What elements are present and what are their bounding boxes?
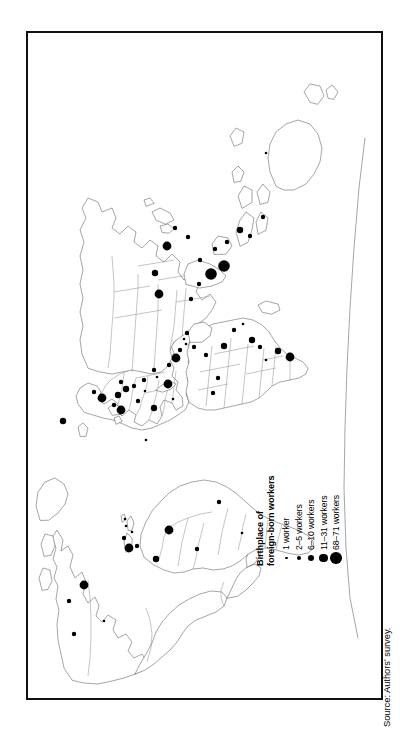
map-data-point bbox=[164, 380, 173, 389]
map-data-point bbox=[72, 632, 76, 636]
map-data-point bbox=[152, 368, 156, 372]
map-data-point bbox=[241, 532, 244, 535]
map-data-point bbox=[135, 544, 139, 548]
figure-root: Birthplace of foreign-born workers 1 wor… bbox=[0, 0, 400, 735]
map-data-point bbox=[132, 384, 136, 388]
map-data-point bbox=[265, 359, 268, 362]
map-data-point bbox=[198, 258, 202, 262]
legend-item-2-5-workers: 2–5 workers bbox=[293, 438, 305, 566]
map-data-point bbox=[136, 399, 140, 403]
legend-title: Birthplace of foreign-born workers bbox=[255, 438, 276, 566]
map-data-point bbox=[232, 328, 236, 332]
map-data-point bbox=[225, 240, 229, 244]
map-rotation-wrapper bbox=[28, 33, 381, 698]
map-data-point bbox=[145, 439, 148, 442]
map-data-point bbox=[163, 242, 172, 251]
map-data-point bbox=[142, 378, 146, 382]
map-data-point bbox=[178, 348, 182, 352]
map-data-point bbox=[265, 152, 268, 155]
legend-item-6-10-workers: 6–10 workers bbox=[305, 438, 317, 566]
map-data-point bbox=[117, 406, 126, 415]
map-data-point bbox=[185, 343, 188, 346]
map-data-point bbox=[125, 544, 134, 553]
map-data-point bbox=[112, 403, 116, 407]
map-data-point bbox=[242, 323, 245, 326]
map-data-point bbox=[248, 234, 252, 238]
map-data-point bbox=[92, 390, 96, 394]
map-data-point bbox=[119, 380, 123, 384]
legend-symbol-icon bbox=[330, 550, 342, 566]
map-data-point bbox=[167, 363, 171, 367]
map-data-point bbox=[60, 418, 66, 424]
map-data-point bbox=[185, 331, 189, 335]
map-data-point bbox=[217, 500, 221, 504]
map-data-point bbox=[80, 581, 89, 590]
legend-title-line2: foreign-born workers bbox=[266, 438, 277, 566]
map-data-point bbox=[195, 547, 199, 551]
map-data-point bbox=[125, 525, 128, 528]
legend-label: 68–71 workers bbox=[331, 495, 341, 550]
legend-item-68-71-workers: 68–71 workers bbox=[330, 438, 342, 566]
map-data-point bbox=[183, 338, 186, 341]
map-data-point bbox=[98, 394, 107, 403]
map-data-point bbox=[103, 620, 106, 623]
map-canvas bbox=[28, 33, 381, 698]
legend-label: 6–10 workers bbox=[306, 500, 316, 550]
map-data-point bbox=[165, 526, 174, 535]
map-data-point bbox=[155, 290, 164, 299]
landmass-antarctica bbox=[344, 138, 365, 638]
map-data-point bbox=[213, 247, 217, 251]
legend-label: 1 worker bbox=[281, 518, 291, 550]
map-frame bbox=[26, 31, 383, 700]
map-data-point bbox=[173, 226, 177, 230]
map-data-point bbox=[172, 354, 181, 363]
map-data-point bbox=[216, 376, 220, 380]
legend-symbol-icon bbox=[285, 550, 288, 566]
map-data-point bbox=[144, 390, 147, 393]
map-data-point bbox=[152, 270, 158, 276]
map-data-point bbox=[192, 345, 196, 349]
map-data-point bbox=[286, 353, 295, 362]
map-data-point bbox=[221, 343, 227, 349]
legend-item-1-worker: 1 worker bbox=[280, 438, 292, 566]
map-data-point bbox=[258, 345, 262, 349]
map-data-point bbox=[153, 556, 159, 562]
world-map-svg bbox=[28, 33, 381, 698]
legend-label: 11–31 workers bbox=[319, 496, 329, 550]
map-data-point bbox=[237, 227, 243, 233]
map-data-point bbox=[156, 376, 159, 379]
map-data-point bbox=[67, 599, 71, 603]
map-data-point bbox=[261, 215, 265, 219]
map-data-point bbox=[172, 398, 175, 401]
map-data-point bbox=[275, 348, 281, 354]
legend-item-11-31-workers: 11–31 workers bbox=[317, 438, 329, 566]
legend-symbol-icon bbox=[297, 550, 301, 566]
map-data-point bbox=[197, 282, 201, 286]
map-data-point bbox=[123, 386, 129, 392]
map-data-point bbox=[186, 235, 190, 239]
legend-label: 2–5 workers bbox=[294, 504, 304, 550]
map-data-point bbox=[205, 268, 217, 280]
source-caption-text: Source: Authors' survey. bbox=[381, 628, 392, 727]
map-data-point bbox=[211, 391, 215, 395]
map-data-point bbox=[151, 405, 157, 411]
legend-title-line1: Birthplace of bbox=[255, 438, 266, 566]
landmass-oceania bbox=[230, 84, 338, 190]
legend-symbol-icon bbox=[308, 550, 314, 566]
map-data-point bbox=[115, 392, 121, 398]
map-data-point bbox=[189, 297, 193, 301]
map-data-point bbox=[131, 531, 134, 534]
legend-symbol-icon bbox=[319, 550, 328, 566]
map-data-point bbox=[122, 536, 126, 540]
map-data-point bbox=[218, 260, 230, 272]
map-data-point bbox=[249, 337, 255, 343]
map-data-point bbox=[204, 353, 208, 357]
map-data-point bbox=[124, 518, 127, 521]
